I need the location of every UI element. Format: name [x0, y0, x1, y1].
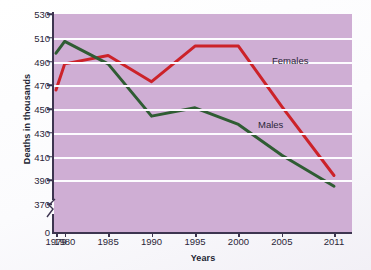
y-tick-label: 490: [4, 56, 50, 67]
y-tick-mark: [47, 108, 52, 110]
plot-area: [54, 14, 352, 232]
x-tick-label: 1980: [54, 236, 75, 247]
y-axis-origin-label: 0: [4, 227, 50, 238]
y-tick-mark: [47, 203, 52, 205]
x-axis-title: Years: [54, 253, 352, 263]
series-label-females: Females: [272, 55, 308, 66]
y-tick-label: 390: [4, 175, 50, 186]
y-tick-mark: [47, 132, 52, 134]
y-tick-mark: [47, 61, 52, 63]
y-tick-label: 450: [4, 104, 50, 115]
y-tick-mark: [47, 156, 52, 158]
x-tick-mark: [195, 232, 197, 237]
y-tick-label: 530: [4, 9, 50, 20]
axis-break-icon: [44, 198, 62, 218]
line-chart: Deaths in thousands Years 37039041043045…: [0, 0, 371, 270]
gridline: [54, 38, 352, 40]
y-tick-label: 410: [4, 151, 50, 162]
y-tick-mark: [47, 180, 52, 182]
x-tick-mark: [65, 232, 67, 237]
gridline: [54, 180, 352, 182]
gridline: [54, 157, 352, 159]
series-label-males: Males: [258, 119, 283, 130]
y-tick-label: 470: [4, 80, 50, 91]
x-tick-mark: [238, 232, 240, 237]
y-tick-mark: [47, 85, 52, 87]
x-tick-mark: [282, 232, 284, 237]
gridline: [54, 133, 352, 135]
x-tick-label: 2000: [228, 236, 249, 247]
series-lines: [54, 14, 352, 232]
x-tick-label: 2011: [324, 236, 344, 247]
x-tick-mark: [152, 232, 154, 237]
x-tick-label: 2005: [271, 236, 292, 247]
y-axis-line: [52, 12, 54, 200]
x-tick-label: 1985: [98, 236, 119, 247]
y-tick-mark: [47, 37, 52, 39]
y-axis-tick-labels: 3703904104304504704905105300: [0, 0, 50, 270]
gridline: [54, 85, 352, 87]
y-tick-label: 510: [4, 32, 50, 43]
x-axis-line: [52, 232, 352, 234]
y-tick-label: 430: [4, 127, 50, 138]
y-tick-mark: [47, 13, 52, 15]
x-tick-label: 1990: [141, 236, 162, 247]
x-tick-mark: [334, 232, 336, 237]
x-tick-mark: [108, 232, 110, 237]
gridline: [54, 109, 352, 111]
x-tick-label: 1995: [184, 236, 205, 247]
